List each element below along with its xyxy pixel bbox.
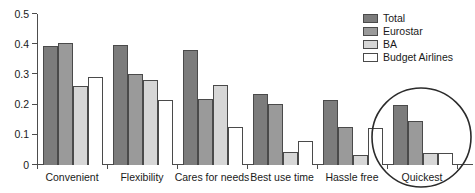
x-axis-category-label: Quickest xyxy=(402,172,443,183)
x-axis-category-label: Cares for needs xyxy=(175,172,250,183)
legend-item: Budget Airlines xyxy=(363,52,453,63)
bar xyxy=(268,104,283,165)
bar xyxy=(353,155,368,165)
y-axis-tick-label: 0.4 xyxy=(14,38,29,49)
y-axis-tick-label: 0 xyxy=(23,159,29,170)
x-axis-tick xyxy=(457,165,458,169)
legend-item-label: BA xyxy=(383,39,397,50)
legend-color-swatch xyxy=(363,40,378,49)
legend-item: BA xyxy=(363,39,453,50)
legend-color-swatch xyxy=(363,53,378,62)
chart-legend: TotalEurostarBABudget Airlines xyxy=(363,13,453,63)
y-axis-tick-label: 0.3 xyxy=(14,69,29,80)
x-axis-category-label: Convenient xyxy=(45,172,98,183)
x-axis-tick xyxy=(317,165,318,169)
x-axis-tick xyxy=(387,165,388,169)
bar xyxy=(58,43,73,165)
bar xyxy=(158,100,173,165)
x-axis-tick xyxy=(247,165,248,169)
bar xyxy=(128,74,143,165)
legend-item-label: Budget Airlines xyxy=(383,52,453,63)
bar-group xyxy=(253,13,313,165)
bar xyxy=(88,77,103,165)
bar-group xyxy=(183,13,243,165)
bar xyxy=(143,80,158,165)
bar xyxy=(73,86,88,165)
bar-chart: 00.10.20.30.40.5 ConvenientFlexibilityCa… xyxy=(0,0,475,193)
bar xyxy=(228,127,243,165)
legend-item-label: Eurostar xyxy=(383,26,423,37)
legend-item-label: Total xyxy=(383,13,405,24)
legend-color-swatch xyxy=(363,27,378,36)
legend-item: Eurostar xyxy=(363,26,453,37)
x-axis-category-label: Hassle free xyxy=(325,172,378,183)
bar xyxy=(338,127,353,165)
x-axis-category-label: Flexibility xyxy=(120,172,163,183)
bar xyxy=(113,45,128,165)
y-axis-tick-label: 0.5 xyxy=(14,8,29,19)
bar xyxy=(198,99,213,165)
bar xyxy=(253,94,268,165)
bar-group xyxy=(113,13,173,165)
x-axis-category-label: Best use time xyxy=(250,172,314,183)
y-axis-tick-label: 0.1 xyxy=(14,129,29,140)
bar xyxy=(323,100,338,165)
bar xyxy=(43,46,58,165)
bar xyxy=(408,121,423,165)
legend-item: Total xyxy=(363,13,453,24)
x-axis-tick xyxy=(107,165,108,169)
bar xyxy=(183,50,198,165)
bar xyxy=(438,153,453,165)
bar xyxy=(393,105,408,165)
x-axis-tick xyxy=(37,165,38,169)
y-axis-tick-label: 0.2 xyxy=(14,99,29,110)
bar xyxy=(283,152,298,165)
bar-group xyxy=(43,13,103,165)
bar xyxy=(298,141,313,165)
bar xyxy=(368,128,383,165)
bar xyxy=(423,153,438,165)
x-axis-tick xyxy=(177,165,178,169)
legend-color-swatch xyxy=(363,14,378,23)
bar xyxy=(213,85,228,165)
